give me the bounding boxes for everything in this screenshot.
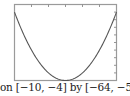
window-range-caption: on [−10, −4] by [−64, −54] [0,80,130,94]
parabola-plot [0,0,130,82]
parabola-curve [15,12,117,80]
plot-frame [15,5,117,81]
